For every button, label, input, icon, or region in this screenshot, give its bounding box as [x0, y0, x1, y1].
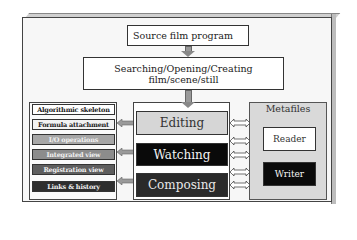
mode-editing: Editing: [136, 111, 228, 135]
search-label-line1: Searching/Opening/Creating: [114, 63, 252, 74]
metafiles-title: Metafiles: [249, 103, 327, 114]
double-arrow-icon: [230, 137, 250, 144]
arrow-left-icon: [117, 177, 134, 184]
mode-watching: Watching: [136, 143, 228, 166]
writer-box: Writer: [263, 162, 316, 186]
reader-box: Reader: [263, 127, 316, 151]
arrow-left-icon: [117, 119, 134, 126]
arrow-down-icon: [183, 46, 194, 57]
view-item-integrated-view: Integrated view: [32, 149, 115, 160]
double-arrow-icon: [230, 151, 250, 158]
search-open-create-box: Searching/Opening/Creating film/scene/st…: [83, 57, 284, 90]
source-film-program-box: Source film program: [127, 25, 249, 46]
mode-composing: Composing: [136, 173, 228, 197]
double-arrow-icon: [230, 168, 250, 175]
arrow-left-icon: [117, 148, 134, 155]
view-item-algorithmic-skeleton: Algorithmic skeleton: [32, 104, 115, 115]
view-item-links-history: Links & history: [32, 181, 115, 192]
view-item-registration-view: Registration view: [32, 164, 115, 175]
search-label-line2: film/scene/still: [114, 74, 252, 85]
arrow-down-icon: [183, 90, 194, 109]
double-arrow-icon: [230, 181, 250, 188]
source-label: Source film program: [133, 30, 233, 41]
double-arrow-icon: [230, 119, 250, 126]
view-item-io-operations: I/O operations: [32, 134, 115, 145]
view-item-formula-attachment: Formula attachment: [32, 119, 115, 130]
